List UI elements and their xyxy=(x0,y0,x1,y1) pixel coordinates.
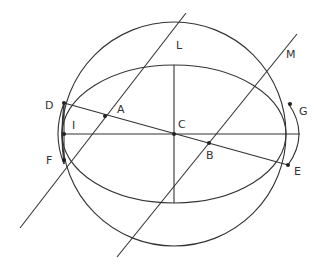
point-m-label: M xyxy=(286,48,296,61)
geometry-diagram: DACBEGIFLM xyxy=(0,0,318,270)
point-b-label: B xyxy=(206,149,214,162)
point-e-marker xyxy=(286,163,290,167)
point-g-label: G xyxy=(299,105,308,118)
point-d-label: D xyxy=(45,99,53,112)
point-a-label: A xyxy=(117,103,125,116)
point-i-marker xyxy=(62,132,66,136)
point-f-label: F xyxy=(46,154,52,167)
point-a-marker xyxy=(103,114,107,118)
point-d-marker xyxy=(62,101,66,105)
point-l-label: L xyxy=(176,39,183,52)
line-AL xyxy=(20,13,186,228)
point-c-label: C xyxy=(178,118,186,131)
point-b-marker xyxy=(207,141,211,145)
point-c-marker xyxy=(172,132,176,136)
point-i-label: I xyxy=(72,119,75,132)
point-g-marker xyxy=(288,102,292,106)
point-e-label: E xyxy=(294,165,301,178)
point-f-marker xyxy=(62,158,66,162)
